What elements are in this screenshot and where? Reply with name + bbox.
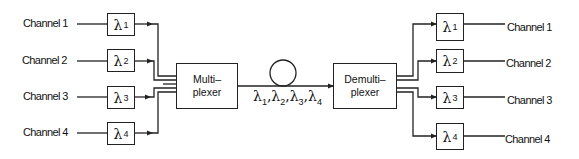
- output-channel-1-label: Channel 1: [507, 21, 552, 33]
- lambda-symbol: λ: [290, 88, 299, 104]
- lambda-symbol: λ: [114, 126, 123, 142]
- output-filter-lambda-1: λ1: [436, 13, 464, 41]
- input-filter-lambda-2: λ2: [107, 49, 135, 72]
- lambda-symbol: λ: [443, 90, 452, 106]
- output-filter-lambda-4: λ4: [436, 123, 464, 150]
- lambda-subscript: 2: [452, 56, 457, 66]
- multiplexer-block: Multi–plexer: [176, 63, 238, 109]
- lambda-symbol: λ: [308, 88, 317, 104]
- demultiplexer-block: Demulti–plexer: [333, 63, 397, 109]
- lambda-symbol: λ: [114, 17, 123, 33]
- input-channel-4-label: Channel 4: [23, 126, 68, 138]
- lambda-symbol: λ: [114, 90, 123, 106]
- lambda-subscript: 4: [317, 97, 322, 107]
- lambda-subscript: 3: [452, 93, 457, 103]
- lambda-subscript: 3: [123, 93, 128, 103]
- input-filter-lambda-4: λ4: [107, 122, 135, 145]
- output-filter-lambda-2: λ2: [436, 49, 464, 73]
- output-filter-lambda-3: λ3: [436, 86, 464, 109]
- lambda-subscript: 4: [452, 132, 457, 142]
- fiber-wavelengths-label: λ1,λ2,λ3,λ4: [253, 88, 322, 107]
- input-filter-lambda-3: λ3: [107, 86, 135, 109]
- multiplexer-label-line1: Multi–: [193, 73, 222, 86]
- lambda-subscript: 4: [123, 129, 128, 139]
- demultiplexer-label-line1: Demulti–: [344, 73, 385, 86]
- lambda-subscript: 1: [452, 22, 457, 32]
- multiplexer-label-line2: plexer: [193, 86, 222, 99]
- connection-lines: [0, 0, 579, 159]
- demultiplexer-label-line2: plexer: [344, 86, 385, 99]
- input-filter-lambda-1: λ1: [107, 13, 135, 36]
- lambda-subscript: 2: [123, 56, 128, 66]
- lambda-symbol: λ: [253, 88, 262, 104]
- lambda-symbol: λ: [271, 88, 280, 104]
- input-channel-3-label: Channel 3: [23, 90, 68, 102]
- lambda-symbol: λ: [114, 53, 123, 69]
- output-channel-2-label: Channel 2: [506, 57, 551, 69]
- output-channel-4-label: Channel 4: [505, 133, 550, 145]
- output-channel-3-label: Channel 3: [507, 94, 552, 106]
- lambda-symbol: λ: [443, 53, 452, 69]
- lambda-symbol: λ: [443, 129, 452, 145]
- lambda-symbol: λ: [443, 19, 452, 35]
- lambda-subscript: 1: [123, 20, 128, 30]
- input-channel-1-label: Channel 1: [23, 17, 68, 29]
- input-channel-2-label: Channel 2: [22, 54, 67, 66]
